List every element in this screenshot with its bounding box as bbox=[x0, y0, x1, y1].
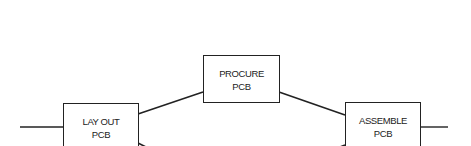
node-label-line2: PCB bbox=[92, 128, 110, 141]
node-label-line1: ASSEMBLE bbox=[359, 114, 407, 127]
edge-lower-assemble bbox=[335, 145, 345, 146]
node-procure-pcb: PROCURE PCB bbox=[203, 55, 280, 103]
edge-procure-assemble bbox=[279, 92, 345, 115]
node-label-line1: LAY OUT bbox=[83, 115, 120, 128]
edge-layout-procure bbox=[138, 92, 203, 114]
edge-layout-lower bbox=[138, 143, 150, 146]
node-label-line1: PROCURE bbox=[219, 67, 264, 80]
node-assemble-pcb: ASSEMBLE PCB bbox=[345, 102, 421, 146]
node-label-line2: PCB bbox=[232, 80, 250, 93]
node-label-line2: PCB bbox=[374, 127, 392, 140]
node-lay-out-pcb: LAY OUT PCB bbox=[63, 103, 139, 146]
